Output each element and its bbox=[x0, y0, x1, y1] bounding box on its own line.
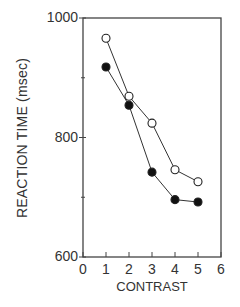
caption-cutoff bbox=[18, 298, 240, 304]
x-tick-label: 1 bbox=[102, 261, 110, 277]
filled-circle-marker bbox=[148, 168, 156, 176]
y-tick-label: 1000 bbox=[47, 9, 78, 25]
y-tick-label: 600 bbox=[55, 248, 78, 264]
plot-frame bbox=[83, 18, 221, 257]
open-circle-marker bbox=[194, 178, 202, 186]
open-circle-marker bbox=[148, 119, 156, 127]
filled-circle-marker bbox=[171, 196, 179, 204]
y-axis-label: REACTION TIME (msec) bbox=[14, 58, 30, 218]
filled-circle-marker bbox=[125, 101, 133, 109]
x-tick-label: 2 bbox=[125, 261, 133, 277]
series-line bbox=[106, 67, 198, 202]
filled-circle-marker bbox=[102, 63, 110, 71]
x-tick-label: 5 bbox=[194, 261, 202, 277]
x-tick-label: 3 bbox=[148, 261, 156, 277]
open-circle-marker bbox=[171, 166, 179, 174]
x-axis-label: CONTRAST bbox=[116, 279, 188, 294]
open-circle-marker bbox=[125, 92, 133, 100]
filled-circle-marker bbox=[194, 198, 202, 206]
x-tick-label: 4 bbox=[171, 261, 179, 277]
open-circle-marker bbox=[102, 34, 110, 42]
x-tick-label: 0 bbox=[79, 261, 87, 277]
y-tick-label: 800 bbox=[55, 129, 78, 145]
plot-area bbox=[0, 0, 240, 307]
chart: REACTION TIME (msec) CONTRAST 0123456600… bbox=[0, 0, 240, 307]
x-tick-label: 6 bbox=[217, 261, 225, 277]
series-line bbox=[106, 38, 198, 181]
